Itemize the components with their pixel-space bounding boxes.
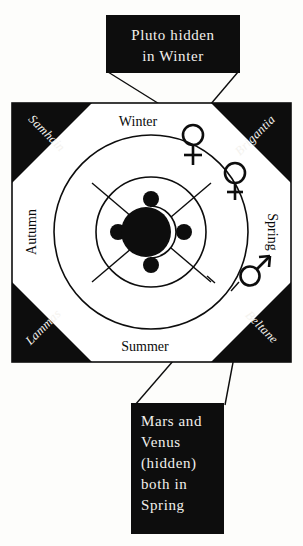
- mars-venus-callout-line-4: both in: [141, 476, 187, 492]
- mars-venus-callout-line-3: (hidden): [141, 455, 197, 472]
- mars-venus-callout-line-1: Mars and: [141, 413, 202, 429]
- season-label-summer: Summer: [121, 339, 169, 354]
- center-disc: [121, 206, 176, 258]
- pluto-callout-line-1: Pluto hidden: [131, 27, 214, 43]
- pluto-callout-background: [106, 15, 240, 73]
- mars-venus-callout-line-5: Spring: [141, 497, 185, 513]
- pluto-callout: Pluto hidden in Winter: [106, 15, 240, 73]
- center-dark-disc: [121, 207, 171, 257]
- season-label-winter: Winter: [119, 114, 158, 129]
- mars-venus-callout-line-2: Venus: [141, 434, 181, 450]
- season-label-spring: Spring: [265, 213, 280, 250]
- pluto-callout-line-2: in Winter: [142, 48, 204, 64]
- season-label-autumn: Autumn: [24, 209, 39, 255]
- wheel-of-the-year-figure: Pluto hidden in Winter: [0, 0, 303, 546]
- moon-dot-bottom: [143, 257, 159, 273]
- moon-dot-right: [176, 224, 192, 240]
- mars-venus-callout: Mars and Venus (hidden) both in Spring: [131, 403, 224, 534]
- moon-dot-top: [143, 191, 159, 207]
- figure-canvas: Pluto hidden in Winter: [0, 0, 303, 546]
